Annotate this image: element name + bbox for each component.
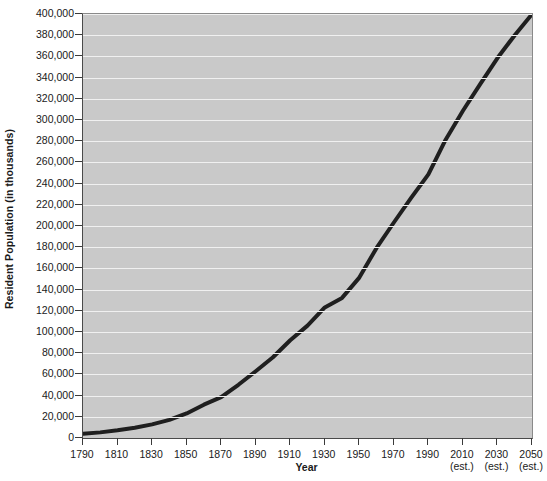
y-tick-mark [75, 77, 82, 78]
y-tick-label: 180,000 [18, 241, 74, 252]
gridline [83, 35, 532, 36]
y-tick-label: 220,000 [18, 198, 74, 209]
x-tick-mark [496, 438, 497, 445]
y-tick-label: 400,000 [18, 8, 74, 19]
y-tick-label: 200,000 [18, 220, 74, 231]
y-tick-mark [75, 183, 82, 184]
y-tick-mark [75, 204, 82, 205]
y-tick-mark [75, 416, 82, 417]
x-tick-mark [151, 438, 152, 445]
gridline [83, 396, 532, 397]
y-axis-tick-labels: 020,00040,00060,00080,000100,000120,0001… [18, 0, 74, 481]
y-tick-label: 120,000 [18, 304, 74, 315]
y-tick-mark [75, 55, 82, 56]
y-tick-mark [75, 373, 82, 374]
y-tick-mark [75, 289, 82, 290]
y-tick-mark [75, 34, 82, 35]
y-tick-mark [75, 119, 82, 120]
y-tick-label: 140,000 [18, 283, 74, 294]
y-tick-label: 260,000 [18, 156, 74, 167]
y-tick-mark [75, 437, 82, 438]
y-tick-label: 240,000 [18, 177, 74, 188]
y-tick-mark [75, 98, 82, 99]
y-tick-label: 280,000 [18, 135, 74, 146]
gridline [83, 417, 532, 418]
x-tick-mark [82, 438, 83, 445]
gridline [83, 311, 532, 312]
x-tick-mark [462, 438, 463, 445]
gridline [83, 205, 532, 206]
x-tick-mark [358, 438, 359, 445]
y-tick-label: 320,000 [18, 92, 74, 103]
y-tick-mark [75, 225, 82, 226]
y-tick-mark [75, 140, 82, 141]
y-tick-mark [75, 246, 82, 247]
y-tick-label: 0 [18, 432, 74, 443]
x-tick-mark [289, 438, 290, 445]
gridline [83, 332, 532, 333]
gridline [83, 226, 532, 227]
y-tick-label: 300,000 [18, 114, 74, 125]
y-tick-mark [75, 13, 82, 14]
x-tick-mark [186, 438, 187, 445]
x-tick-label: 2050(est.) [501, 448, 547, 472]
y-tick-label: 20,000 [18, 410, 74, 421]
gridline [83, 141, 532, 142]
gridline [83, 120, 532, 121]
gridline [83, 247, 532, 248]
gridline [83, 184, 532, 185]
gridline [83, 268, 532, 269]
y-tick-label: 360,000 [18, 50, 74, 61]
x-tick-label-year: 2050 [519, 448, 542, 460]
gridline [83, 99, 532, 100]
x-tick-mark [117, 438, 118, 445]
y-tick-label: 380,000 [18, 29, 74, 40]
gridline [83, 374, 532, 375]
x-tick-mark [324, 438, 325, 445]
y-tick-mark [75, 267, 82, 268]
y-tick-mark [75, 310, 82, 311]
x-tick-mark [220, 438, 221, 445]
y-tick-label: 160,000 [18, 262, 74, 273]
gridline [83, 14, 532, 15]
gridline [83, 353, 532, 354]
x-tick-label-estimate: (est.) [501, 460, 547, 472]
y-tick-label: 60,000 [18, 368, 74, 379]
x-tick-mark [531, 438, 532, 445]
plot-area [82, 13, 533, 439]
y-tick-label: 340,000 [18, 71, 74, 82]
x-tick-mark [255, 438, 256, 445]
gridline [83, 78, 532, 79]
gridline [83, 162, 532, 163]
y-tick-label: 80,000 [18, 347, 74, 358]
y-tick-mark [75, 352, 82, 353]
y-tick-mark [75, 395, 82, 396]
y-tick-mark [75, 161, 82, 162]
y-axis-title: Resident Population (in thousands) [0, 0, 18, 437]
x-tick-mark [427, 438, 428, 445]
y-tick-label: 40,000 [18, 389, 74, 400]
x-tick-mark [393, 438, 394, 445]
y-axis-title-text: Resident Population (in thousands) [3, 128, 15, 308]
gridline [83, 56, 532, 57]
y-tick-label: 100,000 [18, 326, 74, 337]
y-tick-mark [75, 331, 82, 332]
gridline [83, 290, 532, 291]
